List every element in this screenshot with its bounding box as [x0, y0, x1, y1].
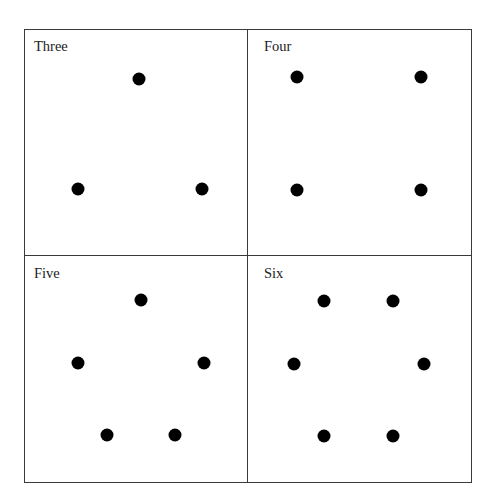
dot-five-1 [135, 294, 148, 307]
dot-six-6 [387, 430, 400, 443]
dot-five-2 [72, 357, 85, 370]
dot-three-1 [133, 73, 146, 86]
dot-six-5 [318, 430, 331, 443]
dot-five-4 [101, 429, 114, 442]
panel-label-six: Six [264, 266, 283, 281]
horizontal-divider [24, 255, 472, 256]
dot-six-2 [387, 295, 400, 308]
dot-four-4 [415, 184, 428, 197]
panel-label-three: Three [34, 39, 68, 54]
dot-six-4 [418, 358, 431, 371]
panel-label-five: Five [34, 266, 60, 281]
dot-three-2 [72, 183, 85, 196]
dot-six-1 [318, 295, 331, 308]
dot-five-3 [198, 357, 211, 370]
dot-four-3 [291, 184, 304, 197]
panel-label-four: Four [264, 39, 291, 54]
dot-four-2 [415, 71, 428, 84]
dot-five-5 [169, 429, 182, 442]
dot-six-3 [288, 358, 301, 371]
dot-four-1 [291, 71, 304, 84]
dot-three-3 [196, 183, 209, 196]
